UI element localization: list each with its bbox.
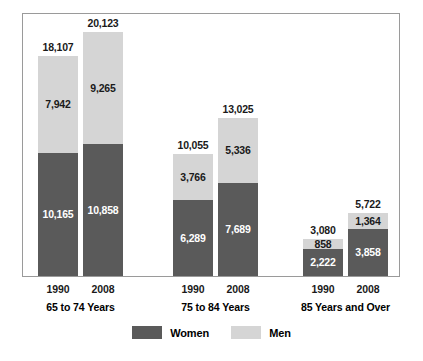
bar-segment-women: 3,858 [348, 229, 388, 276]
bar-85-years-and-over-1990: 2,222858 [303, 239, 343, 276]
legend-item-women[interactable]: Women [132, 326, 209, 339]
legend-swatch-women [132, 326, 162, 339]
bar-value-women: 3,858 [355, 247, 380, 258]
bar-segment-women: 10,165 [38, 153, 78, 276]
bar-value-men: 858 [315, 239, 332, 250]
bar-75-to-84-years-1990: 6,2893,766 [173, 154, 213, 276]
bar-total-label: 18,107 [23, 42, 93, 53]
bar-value-men: 3,766 [180, 172, 205, 183]
stacked-bar-chart: 10,1657,94210,8589,2656,2893,7667,6895,3… [0, 0, 423, 361]
legend-label-women: Women [170, 327, 209, 339]
axis-tick-2008: 2008 [73, 283, 133, 295]
bar-total-label: 20,123 [68, 18, 138, 29]
bar-segment-men: 3,766 [173, 154, 213, 200]
group-label-65-to-74-years: 65 to 74 Years [11, 301, 151, 313]
bar-total-label: 5,722 [333, 199, 403, 210]
bar-value-women: 6,289 [180, 233, 205, 244]
bar-value-men: 7,942 [45, 99, 70, 110]
bar-65-to-74-years-2008: 10,8589,265 [83, 32, 123, 276]
bar-total-label: 13,025 [203, 104, 273, 115]
bar-total-label: 10,055 [158, 140, 228, 151]
legend-swatch-men [231, 326, 261, 339]
bar-value-men: 5,336 [225, 145, 250, 156]
bar-value-men: 1,364 [355, 216, 380, 227]
bar-value-women: 7,689 [225, 224, 250, 235]
bar-value-women: 2,222 [310, 257, 335, 268]
group-label-85-years-and-over: 85 Years and Over [276, 301, 416, 313]
legend-item-men[interactable]: Men [231, 326, 291, 339]
bar-segment-women: 10,858 [83, 144, 123, 276]
bar-value-women: 10,165 [43, 209, 74, 220]
bar-total-label: 3,080 [288, 225, 358, 236]
bar-segment-women: 6,289 [173, 200, 213, 276]
bar-65-to-74-years-1990: 10,1657,942 [38, 56, 78, 276]
group-label-75-to-84-years: 75 to 84 Years [146, 301, 286, 313]
bar-segment-women: 2,222 [303, 249, 343, 276]
bar-value-men: 9,265 [90, 83, 115, 94]
bar-segment-women: 7,689 [218, 183, 258, 276]
bar-segment-men: 7,942 [38, 56, 78, 152]
legend-label-men: Men [269, 327, 291, 339]
bar-value-women: 10,858 [88, 205, 119, 216]
chart-legend: WomenMen [0, 326, 423, 339]
bar-segment-men: 858 [303, 239, 343, 249]
axis-tick-2008: 2008 [338, 283, 398, 295]
bar-85-years-and-over-2008: 3,8581,364 [348, 213, 388, 276]
axis-tick-2008: 2008 [208, 283, 268, 295]
